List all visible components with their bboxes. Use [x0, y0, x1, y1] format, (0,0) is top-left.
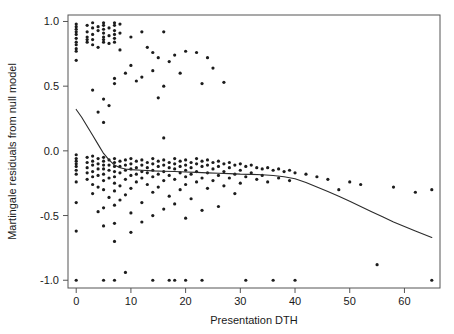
data-point: [113, 33, 116, 36]
data-point: [162, 136, 165, 139]
data-point: [200, 279, 203, 282]
data-point: [151, 214, 154, 217]
x-tick-label: 30: [234, 295, 246, 307]
x-axis-title: Presentation DTH: [210, 314, 297, 326]
y-axis-title: Martingale residuals from null model: [6, 63, 18, 240]
data-point: [288, 179, 291, 182]
data-point: [277, 167, 280, 170]
data-point: [239, 182, 242, 185]
data-point: [135, 166, 138, 169]
data-point: [91, 88, 94, 91]
y-tick-label: -1.0: [40, 274, 59, 286]
data-point: [135, 79, 138, 82]
data-point: [102, 163, 105, 166]
data-point: [107, 163, 110, 166]
data-point: [102, 156, 105, 159]
data-point: [118, 32, 121, 35]
data-point: [233, 163, 236, 166]
data-point: [304, 173, 307, 176]
data-point: [113, 189, 116, 192]
data-point: [75, 201, 78, 204]
data-point: [75, 33, 78, 36]
data-point: [157, 185, 160, 188]
data-point: [75, 59, 78, 62]
data-point: [135, 160, 138, 163]
data-point: [102, 41, 105, 44]
data-point: [151, 175, 154, 178]
data-point: [288, 169, 291, 172]
y-tick-label: 0.0: [44, 145, 59, 157]
data-point: [118, 160, 121, 163]
data-point: [102, 32, 105, 35]
data-point: [102, 206, 105, 209]
data-point: [189, 173, 192, 176]
data-point: [157, 173, 160, 176]
data-point: [86, 24, 89, 27]
x-tick-label: 40: [289, 295, 301, 307]
data-point: [200, 209, 203, 212]
data-point: [124, 178, 127, 181]
data-point: [211, 66, 214, 69]
x-tick-label: 10: [125, 295, 137, 307]
data-point: [337, 188, 340, 191]
data-point: [129, 211, 132, 214]
data-point: [140, 220, 143, 223]
data-point: [113, 77, 116, 80]
data-point: [206, 163, 209, 166]
data-point: [375, 263, 378, 266]
data-point: [91, 175, 94, 178]
data-point: [91, 38, 94, 41]
data-point: [206, 187, 209, 190]
data-point: [75, 229, 78, 232]
data-point: [168, 161, 171, 164]
data-point: [162, 179, 165, 182]
data-point: [255, 178, 258, 181]
data-point: [113, 204, 116, 207]
data-point: [140, 163, 143, 166]
plot-frame: [68, 15, 440, 288]
data-point: [75, 279, 78, 282]
data-point: [118, 48, 121, 51]
data-point: [96, 46, 99, 49]
data-point: [162, 207, 165, 210]
data-point: [173, 167, 176, 170]
data-point: [184, 163, 187, 166]
data-point: [293, 279, 296, 282]
data-point: [173, 162, 176, 165]
data-point: [102, 224, 105, 227]
data-point: [184, 50, 187, 53]
data-point: [129, 231, 132, 234]
data-point: [91, 160, 94, 163]
data-point: [113, 24, 116, 27]
data-point: [75, 165, 78, 168]
data-point: [91, 43, 94, 46]
data-point: [146, 166, 149, 169]
data-point: [113, 157, 116, 160]
data-point: [91, 33, 94, 36]
x-tick-label: 60: [398, 295, 410, 307]
data-point: [107, 34, 110, 37]
data-point: [113, 222, 116, 225]
data-point: [195, 157, 198, 160]
y-tick-label: 1.0: [44, 15, 59, 27]
data-point: [222, 162, 225, 165]
data-point: [135, 180, 138, 183]
data-point: [146, 161, 149, 164]
data-point: [124, 72, 127, 75]
scatter-plot: 1.00.50.0-0.5-1.0 0102030405060 Presenta…: [0, 0, 454, 334]
data-point: [140, 201, 143, 204]
data-point: [75, 37, 78, 40]
data-point: [272, 169, 275, 172]
data-point: [244, 165, 247, 168]
data-point: [228, 161, 231, 164]
data-point: [195, 51, 198, 54]
data-point: [124, 193, 127, 196]
data-point: [211, 179, 214, 182]
data-point: [86, 166, 89, 169]
data-point: [173, 279, 176, 282]
data-point: [195, 162, 198, 165]
data-point: [91, 21, 94, 24]
data-point: [184, 279, 187, 282]
data-point: [222, 81, 225, 84]
data-point: [129, 35, 132, 38]
